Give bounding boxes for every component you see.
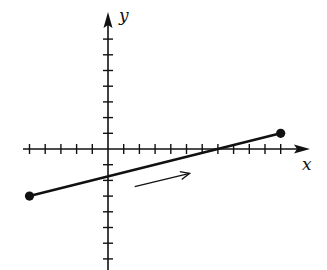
line-segment: [25, 129, 285, 201]
line-segment-graph: x y: [0, 0, 327, 270]
direction-arrow-icon: [135, 172, 190, 187]
coordinate-plane: x y: [0, 0, 327, 270]
x-axis-label: x: [302, 154, 312, 174]
endpoint-dot: [25, 192, 34, 201]
segment-line: [30, 133, 281, 196]
direction-arrow-shaft: [135, 173, 190, 186]
endpoint-dot: [276, 129, 285, 138]
y-axis-label: y: [118, 5, 129, 25]
axes: [23, 12, 310, 270]
